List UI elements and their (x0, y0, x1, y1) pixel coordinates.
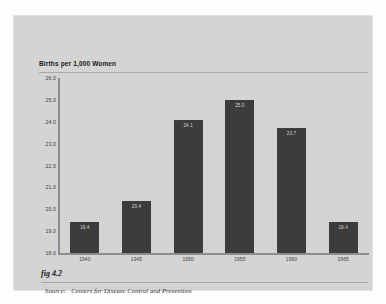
figure-label: fig 4.2 (41, 269, 62, 278)
x-axis-tick-label: 1960 (266, 257, 318, 262)
bar-value-label: 24.1 (174, 123, 203, 128)
caption-divider (41, 282, 368, 283)
x-axis-tick-label: 1945 (111, 257, 163, 262)
y-axis-tick-label: 20.0 (46, 206, 57, 212)
bar-value-label: 19.4 (70, 225, 99, 230)
x-axis-line (58, 253, 369, 255)
x-axis-tick-label: 1955 (214, 257, 266, 262)
source-prefix: Source: (45, 287, 66, 294)
title-divider (39, 72, 368, 73)
y-axis-tick-label: 26.0 (46, 75, 57, 81)
bar: 25.0 (225, 100, 254, 253)
chart-card: Births per 1,000 Women 26.025.024.023.02… (14, 16, 372, 290)
bar: 20.4 (122, 201, 151, 254)
figure-page: Births per 1,000 Women 26.025.024.023.02… (0, 0, 386, 304)
y-axis-tick-label: 24.0 (46, 119, 57, 125)
bar: 19.4 (329, 222, 358, 253)
y-axis-tick-label: 21.0 (46, 184, 57, 190)
x-axis-tick-label: 1950 (162, 257, 214, 262)
bar-value-label: 19.4 (329, 225, 358, 230)
source-caption: Source: Centers for Disease Control and … (45, 287, 192, 294)
y-axis-tick-label: 18.0 (46, 250, 57, 256)
chart-title: Births per 1,000 Women (39, 60, 116, 67)
y-axis-tick-label: 22.0 (46, 163, 57, 169)
y-axis-tick-label: 25.0 (46, 97, 57, 103)
x-axis-tick-label: 1940 (59, 257, 111, 262)
plot-area: 26.025.024.023.022.021.020.019.018.019.4… (59, 78, 369, 253)
bar-value-label: 20.4 (122, 204, 151, 209)
y-axis-tick-label: 19.0 (46, 228, 57, 234)
x-axis-tick-label: 1965 (317, 257, 369, 262)
bar: 23.7 (277, 128, 306, 253)
bar-value-label: 25.0 (225, 103, 254, 108)
bar-value-label: 23.7 (277, 131, 306, 136)
bar: 19.4 (70, 222, 99, 253)
bar: 24.1 (174, 120, 203, 253)
y-axis-tick-label: 23.0 (46, 141, 57, 147)
source-value: Centers for Disease Control and Preventi… (71, 287, 191, 294)
